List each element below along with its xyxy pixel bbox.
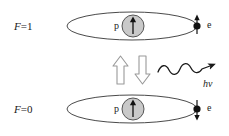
- state-value: 1: [27, 20, 33, 32]
- hyperfine-transition-figure: F=1 F=0 p p e e hν: [0, 0, 229, 136]
- state-upper-group: [67, 12, 201, 40]
- electron-label-upper: e: [207, 20, 211, 30]
- state-symbol: F: [14, 20, 21, 32]
- nucleus-lower: [122, 98, 144, 120]
- absorption-arrow-up-icon: [113, 56, 128, 84]
- proton-label-lower: p: [114, 104, 119, 114]
- proton-label-upper: p: [114, 21, 119, 31]
- electron-dot-lower: [193, 105, 200, 112]
- state-label-upper: F=1: [14, 21, 32, 32]
- nucleus-upper: [122, 15, 144, 37]
- electron-upper: [193, 15, 200, 34]
- state-symbol: F: [14, 103, 21, 115]
- photon-wave-icon: [158, 64, 210, 75]
- photon-energy-label: hν: [203, 79, 212, 89]
- state-value: 0: [27, 103, 33, 115]
- emission-arrow-down-icon: [135, 56, 150, 84]
- electron-dot-upper: [193, 22, 200, 29]
- state-label-lower: F=0: [14, 104, 32, 115]
- electron-lower: [193, 100, 200, 121]
- transition-group: [113, 56, 210, 84]
- state-lower-group: [67, 95, 201, 123]
- electron-label-lower: e: [207, 103, 211, 113]
